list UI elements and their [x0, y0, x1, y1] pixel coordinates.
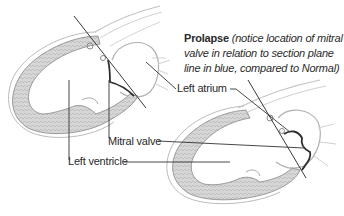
caption-title: Prolapse — [184, 32, 229, 44]
normal-heart — [9, 6, 170, 137]
prolapse-heart — [167, 80, 336, 204]
prolapse-caption: Prolapse (notice location of mitral valv… — [184, 31, 344, 76]
label-mitral-valve: Mitral valve — [108, 135, 161, 148]
label-left-ventricle: Left ventricle — [68, 155, 128, 168]
label-left-atrium: Left atrium — [177, 82, 227, 95]
